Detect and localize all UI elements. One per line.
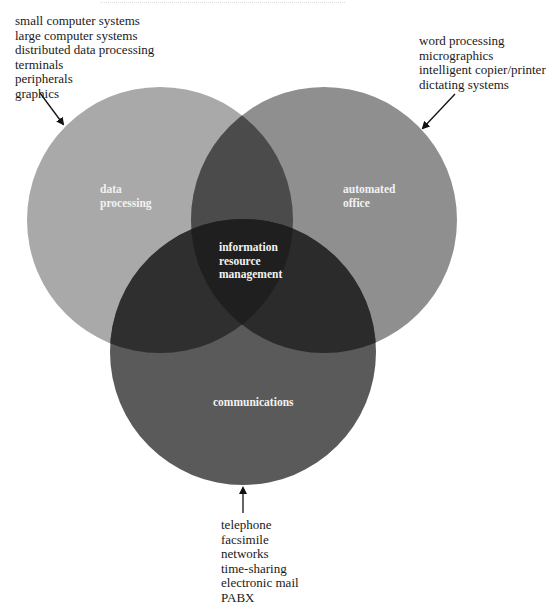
communications-list: telephone facsimile networks time-sharin… <box>221 518 299 606</box>
list-item: facsimile <box>221 533 299 548</box>
list-item: electronic mail <box>221 576 299 591</box>
label-communications: communications <box>213 396 294 410</box>
label-line: information <box>219 241 282 255</box>
label-line: office <box>343 197 395 211</box>
list-item: peripherals <box>15 72 154 87</box>
list-item: dictating systems <box>419 78 546 93</box>
label-line: management <box>219 268 282 282</box>
list-item: time-sharing <box>221 562 299 577</box>
label-line: automated <box>343 183 395 197</box>
list-item: word processing <box>419 34 546 49</box>
label-automated-office: automated office <box>343 183 395 210</box>
list-item: large computer systems <box>15 29 154 44</box>
list-item: small computer systems <box>15 14 154 29</box>
list-item: intelligent copier/printer <box>419 63 546 78</box>
label-information-resource-management: information resource management <box>219 241 282 282</box>
list-item: terminals <box>15 58 154 73</box>
list-item: PABX <box>221 591 299 606</box>
list-item: graphics <box>15 87 154 102</box>
list-item: distributed data processing <box>15 43 154 58</box>
arrow-automated-office <box>423 94 455 128</box>
list-item: telephone <box>221 518 299 533</box>
label-data-processing: data processing <box>100 183 152 210</box>
list-item: micrographics <box>419 49 546 64</box>
list-item: networks <box>221 547 299 562</box>
data-processing-list: small computer systems large computer sy… <box>15 14 154 102</box>
label-line: communications <box>213 396 294 410</box>
label-line: data <box>100 183 152 197</box>
label-line: processing <box>100 197 152 211</box>
label-line: resource <box>219 255 282 269</box>
automated-office-list: word processing micrographics intelligen… <box>419 34 546 92</box>
